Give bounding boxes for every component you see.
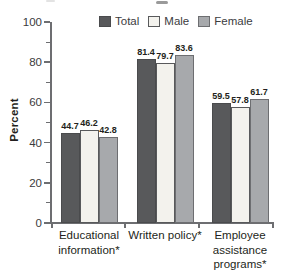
y-tick-label: 100 [6, 15, 42, 29]
y-tick-label: 80 [6, 55, 42, 69]
y-minor-tick [46, 162, 50, 163]
y-major-tick [44, 182, 50, 184]
y-major-tick [44, 102, 50, 104]
bar-value-label: 83.6 [169, 43, 199, 54]
y-major-tick [44, 61, 50, 63]
bar-female [175, 55, 194, 223]
bar-female [99, 137, 118, 223]
bar-male [231, 107, 250, 223]
bar-value-label: 42.8 [93, 125, 123, 136]
bar-chart-figure: TotalMaleFemale Percent 02040608010044.7… [0, 0, 286, 277]
y-minor-tick [46, 122, 50, 123]
y-minor-tick [46, 42, 50, 43]
y-tick-label: 20 [6, 176, 42, 190]
plot-area: 02040608010044.746.242.8Educationalinfor… [0, 0, 286, 277]
y-tick-label: 0 [6, 216, 42, 230]
bar-value-label: 61.7 [244, 87, 274, 98]
category-label: Employeeassistanceprograms* [195, 228, 285, 272]
y-major-tick [44, 21, 50, 23]
bar-female [250, 99, 269, 223]
y-major-tick [44, 142, 50, 144]
bar-total [61, 133, 80, 223]
y-major-tick [44, 222, 50, 224]
bar-total [137, 59, 156, 223]
y-axis-line [50, 22, 52, 224]
y-minor-tick [46, 202, 50, 203]
category-label-line: Employee [195, 228, 285, 243]
bar-total [212, 103, 231, 223]
y-minor-tick [46, 82, 50, 83]
y-tick-label: 60 [6, 95, 42, 109]
category-label-line: information* [44, 243, 134, 258]
y-tick-label: 40 [6, 136, 42, 150]
bar-male [156, 63, 175, 223]
category-label-line: programs* [195, 257, 285, 272]
category-label-line: assistance [195, 243, 285, 258]
bar-male [80, 130, 99, 223]
